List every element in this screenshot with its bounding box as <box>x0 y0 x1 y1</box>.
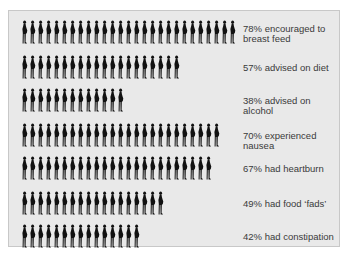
pregnant-woman-icon <box>157 55 165 79</box>
pregnant-woman-icon <box>125 55 133 79</box>
pregnant-woman-icon <box>61 191 69 215</box>
pregnant-woman-icon <box>101 55 109 79</box>
icon-group <box>21 88 125 112</box>
pregnant-woman-icon <box>37 123 45 147</box>
pregnant-woman-icon <box>37 191 45 215</box>
pregnant-woman-icon <box>77 55 85 79</box>
pregnant-woman-icon <box>205 20 213 44</box>
pregnant-woman-icon <box>101 20 109 44</box>
pregnant-woman-icon <box>77 88 85 112</box>
chart-panel: 78% encouraged to breast feed57% advised… <box>8 10 340 247</box>
pregnant-woman-icon <box>205 156 213 180</box>
pregnant-woman-icon <box>61 123 69 147</box>
pregnant-woman-icon <box>21 88 29 112</box>
pregnant-woman-icon <box>69 224 77 248</box>
pregnant-woman-icon <box>53 20 61 44</box>
pregnant-woman-icon <box>53 224 61 248</box>
pregnant-woman-icon <box>93 20 101 44</box>
pregnant-woman-icon <box>53 123 61 147</box>
pregnant-woman-icon <box>29 224 37 248</box>
pregnant-woman-icon <box>77 123 85 147</box>
pregnant-woman-icon <box>141 55 149 79</box>
pregnant-woman-icon <box>229 20 237 44</box>
pregnant-woman-icon <box>69 191 77 215</box>
pregnant-woman-icon <box>69 88 77 112</box>
pregnant-woman-icon <box>125 224 133 248</box>
pregnant-woman-icon <box>93 88 101 112</box>
pregnant-woman-icon <box>109 20 117 44</box>
pregnant-woman-icon <box>141 191 149 215</box>
pregnant-woman-icon <box>21 224 29 248</box>
pregnant-woman-icon <box>165 123 173 147</box>
icon-group <box>21 156 213 180</box>
pregnant-woman-icon <box>109 191 117 215</box>
pregnant-woman-icon <box>157 123 165 147</box>
pregnant-woman-icon <box>61 88 69 112</box>
pregnant-woman-icon <box>125 123 133 147</box>
pregnant-woman-icon <box>149 20 157 44</box>
pregnant-woman-icon <box>21 156 29 180</box>
pregnant-woman-icon <box>117 20 125 44</box>
pregnant-woman-icon <box>109 123 117 147</box>
pregnant-woman-icon <box>69 156 77 180</box>
pregnant-woman-icon <box>21 123 29 147</box>
pregnant-woman-icon <box>157 20 165 44</box>
pregnant-woman-icon <box>173 55 181 79</box>
pregnant-woman-icon <box>133 156 141 180</box>
pregnant-woman-icon <box>69 55 77 79</box>
pregnant-woman-icon <box>45 156 53 180</box>
pregnant-woman-icon <box>85 156 93 180</box>
pregnant-woman-icon <box>157 156 165 180</box>
pregnant-woman-icon <box>109 156 117 180</box>
pregnant-woman-icon <box>37 88 45 112</box>
pregnant-woman-icon <box>149 191 157 215</box>
pregnant-woman-icon <box>53 156 61 180</box>
pregnant-woman-icon <box>101 224 109 248</box>
pregnant-woman-icon <box>45 88 53 112</box>
pregnant-woman-icon <box>29 123 37 147</box>
pregnant-woman-icon <box>189 156 197 180</box>
pregnant-woman-icon <box>101 123 109 147</box>
pregnant-woman-icon <box>61 156 69 180</box>
pregnant-woman-icon <box>141 156 149 180</box>
pregnant-woman-icon <box>189 20 197 44</box>
pregnant-woman-icon <box>53 88 61 112</box>
pregnant-woman-icon <box>117 191 125 215</box>
row-label: 70% experienced nausea <box>243 131 339 151</box>
pregnant-woman-icon <box>109 88 117 112</box>
pregnant-woman-icon <box>133 20 141 44</box>
row-label: 49% had food ‘fads’ <box>243 199 339 209</box>
pregnant-woman-icon <box>173 156 181 180</box>
pregnant-woman-icon <box>85 191 93 215</box>
pregnant-woman-icon <box>117 224 125 248</box>
pregnant-woman-icon <box>93 224 101 248</box>
pregnant-woman-icon <box>53 55 61 79</box>
pregnant-woman-icon <box>117 156 125 180</box>
row-label: 78% encouraged to breast feed <box>243 24 339 44</box>
pregnant-woman-icon <box>117 123 125 147</box>
pregnant-woman-icon <box>157 191 165 215</box>
icon-group <box>21 191 165 215</box>
pregnant-woman-icon <box>125 191 133 215</box>
pregnant-woman-icon <box>85 123 93 147</box>
icon-group <box>21 20 237 44</box>
row-label: 57% advised on diet <box>243 63 339 73</box>
pregnant-woman-icon <box>133 55 141 79</box>
pregnant-woman-icon <box>45 224 53 248</box>
pregnant-woman-icon <box>149 55 157 79</box>
pregnant-woman-icon <box>205 123 213 147</box>
pregnant-woman-icon <box>149 156 157 180</box>
pregnant-woman-icon <box>181 20 189 44</box>
pregnant-woman-icon <box>93 191 101 215</box>
pregnant-woman-icon <box>29 156 37 180</box>
pregnant-woman-icon <box>45 20 53 44</box>
pregnant-woman-icon <box>117 55 125 79</box>
pregnant-woman-icon <box>173 123 181 147</box>
pregnant-woman-icon <box>165 156 173 180</box>
pregnant-woman-icon <box>149 123 157 147</box>
pregnant-woman-icon <box>37 55 45 79</box>
pregnant-woman-icon <box>69 20 77 44</box>
pregnant-woman-icon <box>101 156 109 180</box>
pregnant-woman-icon <box>37 20 45 44</box>
pregnant-woman-icon <box>85 88 93 112</box>
